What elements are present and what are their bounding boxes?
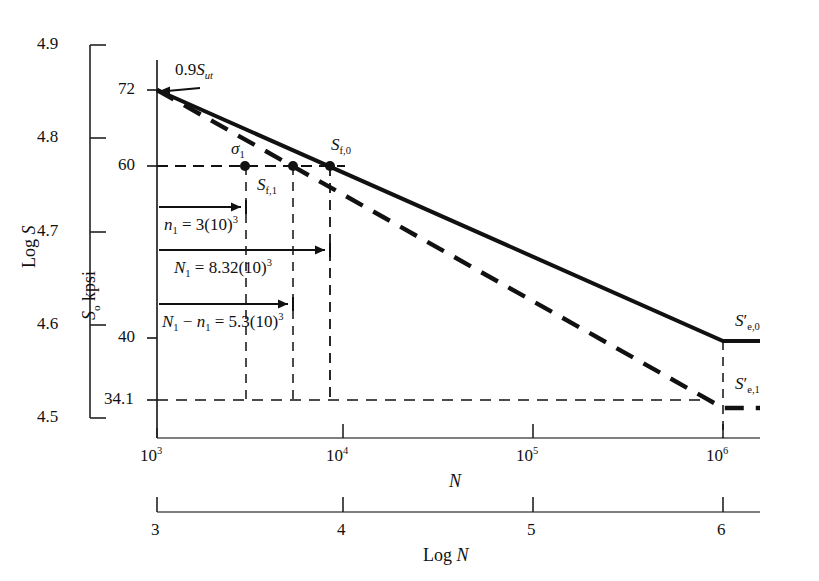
annotation-total-life: N1 = 8.32(10)3 <box>174 259 272 276</box>
n-tick-1e6-base: 10 <box>706 446 723 465</box>
annotation-endurance-1: S′e,1 <box>735 375 760 392</box>
log-s-axis-title-s: S <box>19 226 39 235</box>
logn-tick-6: 6 <box>717 521 726 538</box>
annotation-diff-exponent: 3 <box>278 311 283 322</box>
annotation-ut-symbol: S <box>196 60 205 79</box>
log-s-axis <box>90 45 106 418</box>
annotation-sf1-subscript: f,1 <box>266 185 277 196</box>
annotation-sf0-symbol: S <box>331 135 340 154</box>
annotation-n1-value: = 3(10) <box>178 215 233 234</box>
n-tick-1e6: 106 <box>706 447 728 464</box>
logn-tick-5: 5 <box>527 521 536 538</box>
n-tick-1e4: 104 <box>326 447 348 464</box>
annotation-diff-minus: − <box>179 312 197 331</box>
arrow-total-life <box>159 243 330 257</box>
n-axis-title-text: N <box>449 471 461 491</box>
annotation-ut-prefix: 0.9 <box>175 60 196 79</box>
logn-tick-3: 3 <box>151 521 160 538</box>
so-tick-72: 72 <box>118 80 135 97</box>
logn-tick-4: 4 <box>337 521 346 538</box>
annotation-se1-subscript: e,1 <box>747 384 760 395</box>
annotation-endurance-0: S′e,0 <box>735 312 760 329</box>
annotation-N1-symbol: N <box>174 258 185 277</box>
log-s-tick-4-6: 4.6 <box>37 315 58 332</box>
arrow-n1 <box>159 200 246 214</box>
so-kpsi-axis-title-sub: o <box>90 305 102 311</box>
sn-fatigue-diagram: 4.9 4.8 4.7 4.6 4.5 Log S 72 60 40 34.1 … <box>0 0 819 581</box>
so-kpsi-axis <box>147 60 157 438</box>
logn-axis-title-n: N <box>457 545 469 565</box>
marker-sf0 <box>325 161 335 171</box>
so-kpsi-axis-title: So kpsi <box>80 271 98 320</box>
annotation-diff-n1-symbol: n <box>197 312 206 331</box>
n-tick-1e5-base: 10 <box>516 446 533 465</box>
log-s-axis-title: Log S <box>20 226 38 269</box>
marker-sf1 <box>288 161 298 171</box>
so-tick-40: 40 <box>118 328 135 345</box>
log-s-tick-4-8: 4.8 <box>37 128 58 145</box>
so-kpsi-axis-title-s: S <box>79 311 99 320</box>
logn-axis-title-log: Log <box>423 545 452 565</box>
log-s-tick-4-5: 4.5 <box>37 408 58 425</box>
arrow-remaining-life <box>159 297 293 311</box>
n-tick-1e4-exp: 4 <box>343 445 348 456</box>
annotation-diff-N1-symbol: N <box>162 312 173 331</box>
annotation-n1-exponent: 3 <box>233 214 238 225</box>
log-s-tick-4-7: 4.7 <box>37 222 58 239</box>
n-tick-1e3-exp: 3 <box>157 445 162 456</box>
n-tick-1e4-base: 10 <box>326 446 343 465</box>
annotation-cycles-applied: n1 = 3(10)3 <box>164 216 238 233</box>
annotation-se0-symbol: S <box>735 311 744 330</box>
marker-sigma1 <box>240 161 250 171</box>
n-tick-1e5: 105 <box>516 447 538 464</box>
annotation-sigma-1: σ1 <box>231 140 245 157</box>
n-tick-1e3-base: 10 <box>140 446 157 465</box>
annotation-ut-subscript: ut <box>205 70 213 81</box>
so-tick-60: 60 <box>118 156 135 173</box>
annotation-sigma-subscript: 1 <box>239 149 244 160</box>
n-axis <box>157 424 760 438</box>
annotation-sf1-symbol: S <box>257 175 266 194</box>
annotation-se1-symbol: S <box>735 374 744 393</box>
logn-axis-title: Log N <box>423 546 469 564</box>
log-s-axis-title-log: Log <box>19 239 39 268</box>
log-n-axis <box>157 497 760 512</box>
annotation-se0-subscript: e,0 <box>747 321 760 332</box>
n-tick-1e6-exp: 6 <box>723 445 728 456</box>
annotation-diff-value: = 5.3(10) <box>210 312 278 331</box>
annotation-N1-value: = 8.32(10) <box>191 258 267 277</box>
so-tick-34-1: 34.1 <box>104 390 134 407</box>
annotation-sf0-subscript: f,0 <box>340 145 351 156</box>
annotation-n1-symbol: n <box>164 215 173 234</box>
n-tick-1e5-exp: 5 <box>533 445 538 456</box>
annotation-ultimate-strength: 0.9Sut <box>175 61 213 78</box>
so-kpsi-axis-title-unit: kpsi <box>79 271 99 301</box>
annotation-remaining-life: N1 − n1 = 5.3(10)3 <box>162 313 283 330</box>
annotation-N1-exponent: 3 <box>267 257 272 268</box>
annotation-sf1: Sf,1 <box>257 176 277 193</box>
log-s-tick-4-9: 4.9 <box>37 35 58 52</box>
n-axis-title: N <box>449 472 461 490</box>
n-tick-1e3: 103 <box>140 447 162 464</box>
annotation-sf0: Sf,0 <box>331 136 351 153</box>
